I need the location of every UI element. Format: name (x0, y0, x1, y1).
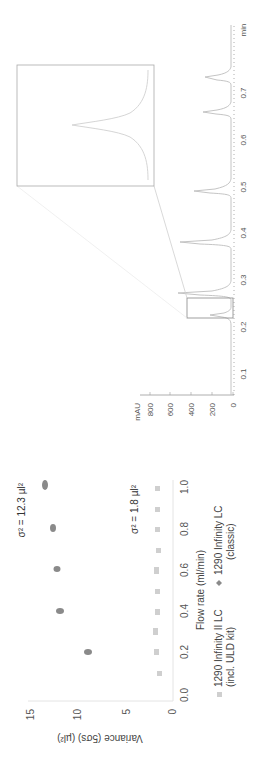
scatter-plot: 0 5 10 15 Variance (5σs) (µl²) 0.0 0.2 0… (16, 480, 236, 744)
chromatogram-trace (178, 25, 231, 395)
uld-point (155, 507, 160, 512)
chrom-xtick-0.1: 0.1 (239, 368, 248, 380)
chrom-xtick-0.2: 0.2 (239, 321, 248, 333)
scatter-y-axis-title: Variance (5σs) (µl²) (57, 733, 143, 744)
legend-uld-line1: 1290 Infinity II LC (213, 609, 224, 687)
classic-point (42, 480, 48, 490)
scatter-xtick-0: 0.0 (179, 688, 190, 702)
uld-point (154, 567, 159, 574)
scatter-xtick-4: 0.8 (179, 522, 190, 536)
chrom-x-unit: min (239, 24, 248, 37)
chrom-xtick-0.7: 0.7 (239, 87, 248, 99)
chrom-xtick-0.4: 0.4 (239, 227, 248, 239)
uld-point (155, 486, 160, 491)
legend-uld-marker (217, 692, 222, 697)
chrom-xtick-0.3: 0.3 (239, 274, 248, 286)
classic-point (56, 608, 64, 614)
scatter-ytick-0: 0 (167, 709, 178, 715)
chromatogram-plot: 0 200 400 600 800 mAU 0.1 0.2 0.3 0.4 0.… (17, 24, 248, 421)
series-classic (42, 480, 92, 655)
scatter-xtick-2: 0.4 (179, 604, 190, 618)
uld-point (153, 628, 158, 635)
inset-connector-left (17, 186, 187, 318)
chrom-y-unit: mAU (133, 403, 142, 421)
chrom-ytick-600: 600 (166, 402, 175, 416)
uld-point (154, 649, 159, 655)
legend-uld-line2: (incl. ULD kit) (225, 627, 236, 687)
classic-point (54, 566, 61, 572)
chrom-ytick-0: 0 (229, 402, 238, 407)
uld-point (157, 671, 162, 676)
chrom-xtick-0.5: 0.5 (239, 181, 248, 193)
series-uld (153, 486, 162, 676)
annotation-classic-variance: σ² = 12.3 µl² (16, 482, 27, 537)
inset-frame (17, 65, 154, 186)
figure-svg: 0 5 10 15 Variance (5σs) (µl²) 0.0 0.2 0… (0, 0, 258, 765)
inset-zoom (17, 65, 154, 186)
scatter-legend: 1290 Infinity II LC (incl. ULD kit) 1290… (213, 506, 236, 698)
legend-classic-line1: 1290 Infinity LC (213, 506, 224, 576)
scatter-xtick-5: 1.0 (179, 480, 190, 494)
scatter-ytick-5: 5 (121, 709, 132, 715)
uld-point (156, 548, 161, 553)
chrom-ytick-200: 200 (208, 402, 217, 416)
scatter-ytick-15: 15 (25, 709, 36, 721)
legend-classic-line2: (classic) (225, 523, 236, 560)
uld-point (155, 609, 160, 615)
classic-point (50, 524, 56, 532)
chrom-y-ticks (150, 392, 233, 395)
scatter-ytick-10: 10 (72, 709, 83, 721)
chrom-ytick-800: 800 (146, 402, 155, 416)
chrom-ytick-400: 400 (187, 402, 196, 416)
scatter-xtick-3: 0.6 (179, 563, 190, 577)
scatter-xtick-1: 0.2 (179, 645, 190, 659)
classic-point (84, 649, 92, 655)
annotation-uld-variance: σ² = 1.8 µl² (129, 484, 140, 534)
uld-point (155, 589, 160, 594)
uld-point (155, 527, 160, 532)
chrom-xtick-0.6: 0.6 (239, 134, 248, 146)
figure-canvas: 0 5 10 15 Variance (5σs) (µl²) 0.0 0.2 0… (0, 0, 258, 765)
scatter-x-axis-title: Flow rate (ml/min) (195, 550, 206, 630)
legend-classic-marker (216, 580, 222, 586)
